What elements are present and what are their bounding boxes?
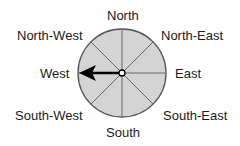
label-north-east: North-East (161, 29, 223, 43)
label-south: South (106, 126, 140, 140)
label-north: North (107, 9, 139, 23)
label-south-east: South-East (163, 109, 227, 123)
label-north-west: North-West (17, 29, 83, 43)
label-west: West (40, 67, 69, 81)
label-east: East (175, 67, 201, 81)
center-pivot (119, 70, 125, 76)
label-south-west: South-West (15, 109, 83, 123)
